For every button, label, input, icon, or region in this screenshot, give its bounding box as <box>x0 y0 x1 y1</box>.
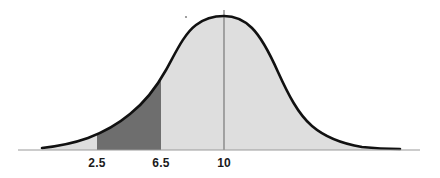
x-axis-tick-label-10: 10 <box>217 157 231 169</box>
speck-artifact-icon <box>185 16 187 18</box>
x-axis-tick-label-2-5: 2.5 <box>88 157 105 169</box>
curve-fill-group <box>0 0 440 178</box>
distribution-plot-area <box>0 0 440 178</box>
x-axis-tick-label-6-5: 6.5 <box>152 157 169 169</box>
area-fill-highlight-2-5-to-6-5 <box>97 0 161 178</box>
area-fill-light <box>0 0 440 178</box>
normal-distribution-chart: 2.5 6.5 10 <box>0 0 440 178</box>
